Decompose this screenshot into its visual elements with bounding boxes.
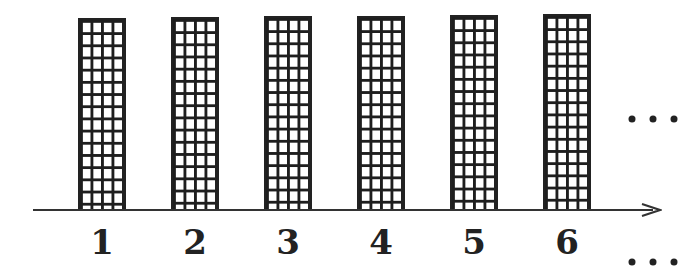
column-label-2: 2 (171, 222, 219, 262)
ellipsis-bottom (624, 243, 688, 276)
grid-column-5 (450, 15, 498, 211)
ellipsis-icon (624, 112, 688, 126)
arrowhead-icon (640, 202, 662, 218)
column-label-1: 1 (78, 222, 126, 262)
column-label-4: 4 (357, 222, 405, 262)
grid-column-2 (171, 17, 219, 211)
grid-column-4 (357, 16, 405, 211)
grid-column-6 (543, 14, 591, 211)
ellipsis-top (624, 100, 688, 133)
axis-line (33, 209, 653, 211)
grid-column-3 (264, 16, 312, 211)
column-label-3: 3 (264, 222, 312, 262)
column-label-6: 6 (543, 222, 591, 262)
grid-column-1 (78, 18, 126, 211)
column-label-5: 5 (450, 222, 498, 262)
ellipsis-icon (624, 255, 688, 269)
